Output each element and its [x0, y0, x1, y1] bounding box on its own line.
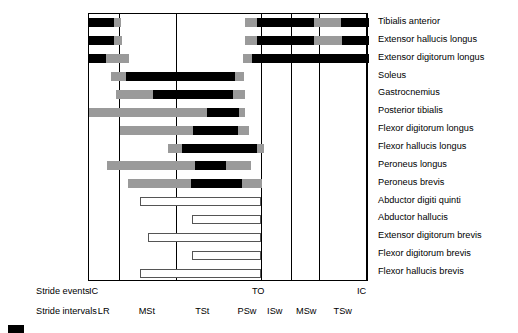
- stride-events-caption: Stride events: [36, 286, 90, 296]
- muscle-label: Flexor hallucis longus: [378, 141, 466, 151]
- muscle-label: Extensor digitorum brevis: [378, 230, 482, 240]
- activity-segment-gray: [120, 126, 193, 135]
- activity-segment-black: [341, 18, 369, 27]
- activity-segment-gray: [128, 179, 191, 188]
- activity-segment-gray: [238, 126, 249, 135]
- muscle-label: Tibialis anterior: [378, 16, 440, 26]
- stride-intervals-row: Stride intervals LRMStTStPSwISwMSwTSw: [0, 306, 518, 318]
- stride-interval-label: TSt: [195, 306, 209, 316]
- muscle-bar-row: [89, 179, 367, 188]
- activity-segment-white: [192, 251, 261, 260]
- stride-interval-label: LR: [98, 306, 110, 316]
- muscle-label: Flexor hallucis brevis: [378, 266, 464, 276]
- activity-segment-gray: [242, 179, 262, 188]
- activity-segment-gray: [235, 72, 244, 81]
- activity-segment-white: [140, 197, 261, 206]
- activity-segment-black: [207, 108, 239, 117]
- muscle-bar-row: [89, 251, 367, 260]
- activity-segment-gray: [257, 144, 264, 153]
- activity-segment-white: [140, 269, 261, 278]
- muscle-bar-row: [89, 215, 367, 224]
- muscle-bar-row: [89, 36, 367, 45]
- activity-segment-black: [195, 161, 226, 170]
- activity-segment-white: [148, 233, 261, 242]
- muscle-label: Peroneus brevis: [378, 177, 444, 187]
- activity-segment-gray: [245, 18, 257, 27]
- page-corner-mark: [8, 325, 24, 333]
- muscle-bar-row: [89, 54, 367, 63]
- activity-segment-gray: [245, 36, 257, 45]
- activity-segment-gray: [226, 161, 251, 170]
- activity-segment-gray: [116, 90, 153, 99]
- stride-event-label: IC: [357, 286, 366, 296]
- muscle-bar-row: [89, 144, 367, 153]
- activity-segment-gray: [89, 108, 207, 117]
- activity-segment-black: [89, 36, 114, 45]
- activity-segment-gray: [111, 72, 126, 81]
- muscle-bar-row: [89, 90, 367, 99]
- activity-segment-gray: [239, 108, 245, 117]
- activity-segment-gray: [107, 161, 195, 170]
- stride-interval-label: MSw: [296, 306, 316, 316]
- activity-segment-black: [182, 144, 257, 153]
- activity-segment-black: [257, 36, 314, 45]
- muscle-bar-row: [89, 126, 367, 135]
- activity-segment-white: [192, 215, 261, 224]
- stride-interval-label: ISw: [267, 306, 282, 316]
- muscle-label: Soleus: [378, 70, 406, 80]
- activity-segment-gray: [314, 36, 342, 45]
- activity-segment-gray: [243, 54, 252, 63]
- activity-segment-black: [126, 72, 235, 81]
- muscle-bar-row: [89, 72, 367, 81]
- activity-segment-black: [153, 90, 233, 99]
- stride-event-label: IC: [89, 286, 98, 296]
- gait-muscle-activity-figure: Tibialis anteriorExtensor hallucis longu…: [0, 0, 518, 333]
- activity-segment-gray: [314, 18, 341, 27]
- muscle-label: Flexor digitorum brevis: [378, 248, 471, 258]
- stride-event-label: TO: [252, 286, 265, 296]
- muscle-bar-row: [89, 269, 367, 278]
- muscle-label: Extensor digitorum longus: [378, 52, 484, 62]
- activity-segment-gray: [233, 90, 245, 99]
- muscle-label: Peroneus longus: [378, 159, 447, 169]
- muscle-bar-row: [89, 233, 367, 242]
- muscle-bar-row: [89, 108, 367, 117]
- muscle-bar-row: [89, 18, 367, 27]
- activity-segment-black: [257, 18, 314, 27]
- activity-segment-black: [342, 36, 369, 45]
- muscle-label: Abductor hallucis: [378, 212, 448, 222]
- activity-segment-gray: [106, 54, 129, 63]
- muscle-label: Flexor digitorum longus: [378, 123, 474, 133]
- muscle-bar-row: [89, 161, 367, 170]
- activity-segment-black: [252, 54, 369, 63]
- plot-area: [88, 13, 368, 281]
- muscle-label: Posterior tibialis: [378, 105, 443, 115]
- stride-interval-label: PSw: [238, 306, 257, 316]
- muscle-label: Extensor hallucis longus: [378, 34, 477, 44]
- muscle-label: Gastrocnemius: [378, 87, 440, 97]
- activity-segment-black: [89, 18, 114, 27]
- activity-segment-gray: [114, 18, 121, 27]
- stride-intervals-caption: Stride intervals: [36, 306, 97, 316]
- stride-interval-label: MSt: [139, 306, 155, 316]
- muscle-label: Abductor digiti quinti: [378, 195, 461, 205]
- muscle-bar-row: [89, 197, 367, 206]
- activity-segment-gray: [168, 144, 182, 153]
- activity-segment-black: [193, 126, 238, 135]
- activity-segment-black: [191, 179, 242, 188]
- stride-events-row: Stride events ICTOIC: [0, 286, 518, 298]
- stride-interval-label: TSw: [334, 306, 352, 316]
- activity-segment-gray: [114, 36, 122, 45]
- activity-segment-black: [89, 54, 106, 63]
